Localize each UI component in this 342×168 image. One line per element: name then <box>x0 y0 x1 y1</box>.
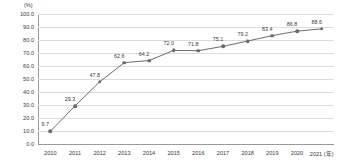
x-axis-tick-label: 2021 (年) <box>310 150 334 158</box>
y-axis-tick-label: 60.0 <box>2 63 34 69</box>
y-axis-tick-label: 90.0 <box>2 24 34 30</box>
y-axis-tick-label: 100.0 <box>2 11 34 17</box>
y-axis-tick-label: 40.0 <box>2 89 34 95</box>
data-point-label: 71.8 <box>188 41 199 47</box>
x-axis-tick-label: 2012 <box>93 150 105 156</box>
y-axis-tick-label: 20.0 <box>2 115 34 121</box>
data-point-label: 47.8 <box>89 72 100 78</box>
gridline <box>38 144 334 145</box>
y-axis-unit-label: (%) <box>24 2 33 8</box>
data-point-label: 64.2 <box>139 51 150 57</box>
x-axis-tick-label: 2016 <box>192 150 204 156</box>
data-point-marker <box>172 49 176 53</box>
data-point-label: 88.6 <box>311 19 322 25</box>
data-point-label: 62.6 <box>114 53 125 59</box>
series-line <box>38 14 334 144</box>
data-point-marker <box>271 34 275 38</box>
data-point-marker <box>98 80 102 84</box>
y-axis-tick-label: 30.0 <box>2 102 34 108</box>
x-axis-tick-label: 2013 <box>118 150 130 156</box>
y-axis-tick-label: 50.0 <box>2 76 34 82</box>
data-point-label: 79.2 <box>237 31 248 37</box>
plot-area: 9.729.347.862.664.272.071.875.179.283.48… <box>38 14 334 144</box>
x-axis-tick-label: 2015 <box>167 150 179 156</box>
data-point-marker <box>320 27 324 31</box>
data-point-marker <box>49 130 53 134</box>
data-point-label: 83.4 <box>262 26 273 32</box>
x-axis-tick-label: 2017 <box>217 150 229 156</box>
data-point-label: 86.8 <box>287 21 298 27</box>
data-point-marker <box>197 49 201 53</box>
data-point-label: 72.0 <box>163 40 174 46</box>
data-point-marker <box>73 104 77 108</box>
y-axis-tick-label: 80.0 <box>2 37 34 43</box>
y-axis-tick-label: 10.0 <box>2 128 34 134</box>
x-axis-tick-label: 2014 <box>143 150 155 156</box>
y-axis-tick-label: 70.0 <box>2 50 34 56</box>
data-point-marker <box>295 29 299 33</box>
x-axis-tick-label: 2018 <box>241 150 253 156</box>
x-axis-tick-label: 2010 <box>44 150 56 156</box>
data-point-marker <box>246 39 250 43</box>
x-axis-tick-label: 2011 <box>69 150 81 156</box>
x-axis-tick-label: 2020 <box>291 150 303 156</box>
x-axis-tick-label: 2019 <box>266 150 278 156</box>
data-point-label: 75.1 <box>213 36 224 42</box>
data-point-label: 29.3 <box>65 96 76 102</box>
data-point-marker <box>147 59 151 63</box>
line-chart: (%) 9.729.347.862.664.272.071.875.179.28… <box>0 0 342 168</box>
data-point-marker <box>221 45 225 49</box>
data-point-marker <box>123 61 127 65</box>
data-point-label: 9.7 <box>42 121 50 127</box>
y-axis-tick-label: 0.0 <box>2 141 34 147</box>
